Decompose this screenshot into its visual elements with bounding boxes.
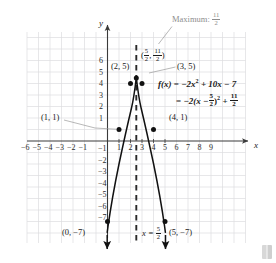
eq1-term-a: −2x <box>181 79 195 89</box>
x-tick-1: 1 <box>117 144 121 152</box>
point-label-3-5: (3, 5) <box>177 62 195 71</box>
eq2-equals: = <box>176 96 181 106</box>
graph-canvas <box>0 0 276 263</box>
vertex-comma: , <box>149 50 151 60</box>
axis-sym-den: 2 <box>156 234 161 241</box>
eq2-exponent: 2 <box>217 95 220 101</box>
point-5-neg7 <box>163 219 168 224</box>
function-equation-line2: = −2(x −52)2 + 112 <box>176 93 238 108</box>
page-corner-mark <box>262 245 272 259</box>
y-tick--1: −1 <box>98 145 107 153</box>
eq1-exponent: 2 <box>196 78 199 84</box>
x-tick-5: 5 <box>163 144 167 152</box>
eq1-lhs: f(x) <box>158 79 172 89</box>
eq2-den-2: 2 <box>230 101 239 108</box>
axis-sym-lhs: x = <box>142 228 154 238</box>
y-tick-3: 3 <box>99 92 103 100</box>
y-tick--2: −2 <box>98 157 107 165</box>
point-2-5 <box>128 81 133 86</box>
maximum-fraction: 112 <box>212 12 220 27</box>
axis-of-symmetry-label: x = 52 <box>142 226 161 241</box>
parabola-figure: −6 −5 −4 −3 −2 −1 1 2 3 4 5 6 7 8 9 6 5 … <box>0 0 276 263</box>
maximum-annotation: Maximum: 112 <box>172 12 220 27</box>
point-label-2-5: (2, 5) <box>111 62 129 71</box>
y-tick--5: −5 <box>98 191 107 199</box>
point-label-0-neg7: (0, −7) <box>62 228 85 237</box>
maximum-label: Maximum: <box>172 14 210 24</box>
x-tick-9: 9 <box>209 144 213 152</box>
eq2-plus: + <box>222 96 227 106</box>
function-equation-line1: f(x) = −2x2 + 10x − 7 <box>158 78 236 89</box>
point-3-5 <box>140 81 145 86</box>
x-tick-4: 4 <box>152 144 156 152</box>
leader-1-1 <box>64 120 95 128</box>
x-tick--2: −2 <box>67 144 76 152</box>
vertex-paren-close: ) <box>162 50 165 60</box>
point-1-1 <box>117 127 122 132</box>
eq2-term-a: −2(x − <box>183 96 208 106</box>
x-tick-3: 3 <box>140 144 144 152</box>
x-axis-label: x <box>254 141 258 150</box>
y-tick-6: 6 <box>99 57 103 65</box>
eq1-term-b: + 10x − 7 <box>201 79 236 89</box>
vertex-y-den: 2 <box>153 56 161 63</box>
point-label-4-1: (4, 1) <box>169 113 187 122</box>
y-tick--4: −4 <box>98 180 107 188</box>
axis-lines <box>27 25 248 238</box>
x-tick-7: 7 <box>186 144 190 152</box>
y-tick--7: −7 <box>98 214 107 222</box>
maximum-denominator: 2 <box>212 20 220 27</box>
y-tick--6: −6 <box>98 203 107 211</box>
point-label-5-neg7: (5, −7) <box>169 228 192 237</box>
leader-1-1b <box>95 128 116 129</box>
eq1-equals: = <box>174 79 179 89</box>
y-tick-2: 2 <box>99 103 103 111</box>
y-tick-1: 1 <box>99 115 103 123</box>
x-tick--4: −4 <box>44 144 53 152</box>
point-label-1-1: (1, 1) <box>41 113 59 122</box>
x-tick-8: 8 <box>198 144 202 152</box>
axis-sym-fraction: 52 <box>156 226 161 241</box>
point-vertex <box>134 76 139 81</box>
y-axis-label: y <box>99 19 103 28</box>
x-tick--6: −6 <box>21 144 30 152</box>
y-tick--3: −3 <box>98 168 107 176</box>
x-tick--5: −5 <box>33 144 42 152</box>
vertex-label: (52, 112) <box>141 48 165 63</box>
y-tick-4: 4 <box>99 80 103 88</box>
x-tick--3: −3 <box>56 144 65 152</box>
y-tick-5: 5 <box>99 69 103 77</box>
vertex-y-fraction: 112 <box>153 48 161 63</box>
x-tick-2: 2 <box>129 144 133 152</box>
x-tick--1: −1 <box>79 144 88 152</box>
eq2-fraction-2: 112 <box>230 93 239 108</box>
x-tick-6: 6 <box>175 144 179 152</box>
point-4-1 <box>151 127 156 132</box>
